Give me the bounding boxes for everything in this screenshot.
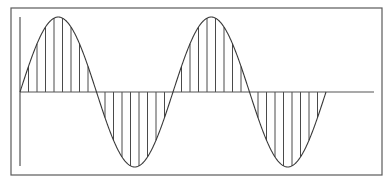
sine-wave-figure — [0, 0, 392, 183]
sine-wave-plot — [0, 0, 392, 183]
